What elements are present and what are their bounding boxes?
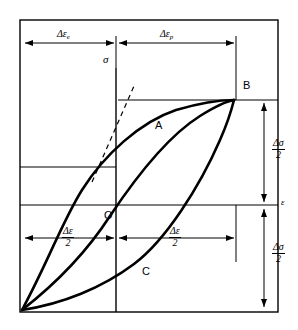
half-strain-right-denominator: 2 xyxy=(169,238,181,249)
half-strain-left-denominator: 2 xyxy=(62,238,74,249)
point-label-c: C xyxy=(142,266,150,277)
half-stress-lower-label: Δσ 2 xyxy=(272,242,285,264)
point-label-b: B xyxy=(243,80,250,91)
elastic-strain-subscript: e xyxy=(67,33,70,41)
plastic-strain-label: Δεp xyxy=(160,29,173,39)
half-stress-lower-denominator: 2 xyxy=(272,254,285,265)
half-stress-upper-denominator: 2 xyxy=(272,150,285,161)
half-stress-lower-numerator: Δσ xyxy=(272,242,285,254)
origin-label: O xyxy=(104,210,113,221)
half-strain-left-numerator: Δε xyxy=(62,226,74,238)
half-stress-upper-label: Δσ 2 xyxy=(272,138,285,160)
half-strain-left-label: Δε 2 xyxy=(62,226,74,248)
point-label-a: A xyxy=(155,120,162,131)
elastic-strain-symbol: Δε xyxy=(57,28,67,39)
half-strain-right-label: Δε 2 xyxy=(169,226,181,248)
half-stress-upper-dimension-arrow xyxy=(261,103,267,202)
figure-canvas xyxy=(0,0,298,330)
half-strain-right-numerator: Δε xyxy=(169,226,181,238)
half-stress-upper-numerator: Δσ xyxy=(272,138,285,150)
plastic-strain-dimension-arrow xyxy=(119,40,234,46)
sigma-axis-label: σ xyxy=(103,54,108,65)
plastic-strain-subscript: p xyxy=(170,33,174,41)
hysteresis-loop-figure: Δεe Δεp σ ε B A C O Δε 2 Δε 2 Δσ 2 Δσ 2 xyxy=(0,0,298,330)
epsilon-axis-label: ε xyxy=(281,198,285,207)
plastic-strain-symbol: Δε xyxy=(160,28,170,39)
elastic-strain-label: Δεe xyxy=(57,29,70,39)
half-stress-lower-dimension-arrow xyxy=(261,209,267,307)
